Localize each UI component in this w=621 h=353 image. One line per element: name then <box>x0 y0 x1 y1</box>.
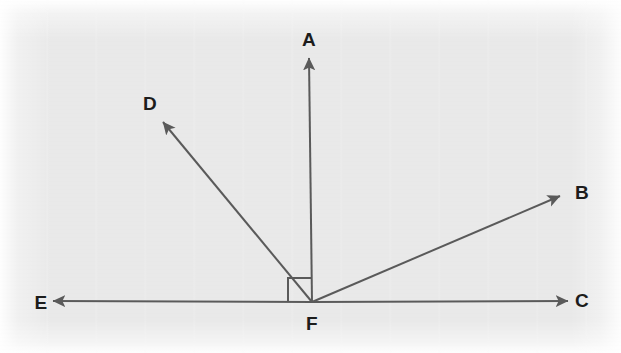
ray-FA <box>309 58 312 302</box>
ray-FE <box>53 301 312 302</box>
point-label-D: D <box>143 94 157 113</box>
point-label-B: B <box>575 183 589 202</box>
ray-FC <box>312 301 568 302</box>
rays-group <box>53 58 568 302</box>
ray-FB <box>312 196 560 302</box>
point-label-E: E <box>35 293 48 312</box>
diagram-canvas <box>0 0 621 353</box>
ray-FD <box>163 122 312 302</box>
geometry-figure: A B C D E F <box>0 0 621 353</box>
point-label-C: C <box>575 291 589 310</box>
point-label-A: A <box>302 30 316 49</box>
point-label-F: F <box>306 314 318 333</box>
